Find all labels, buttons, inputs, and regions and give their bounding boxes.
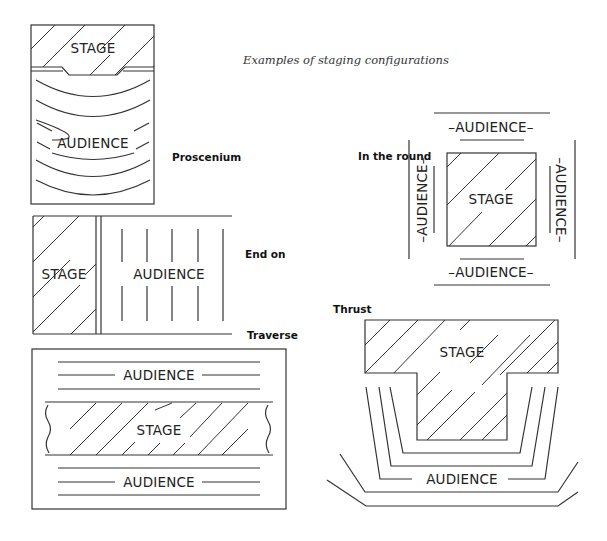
proscenium-stage-label: STAGE [71, 40, 116, 56]
traverse-audience-bottom-label: AUDIENCE [123, 474, 195, 490]
in-the-round-diagram: In the round –AUDIENCE– STAGE –AUDIENCE–… [358, 113, 575, 285]
diagram-title: Examples of staging configurations [242, 53, 449, 67]
end-on-caption: End on [245, 248, 286, 260]
end-on-stage-label: STAGE [42, 266, 87, 282]
thrust-audience-label: AUDIENCE [426, 471, 498, 487]
thrust-stage-label: STAGE [440, 344, 485, 360]
end-on-diagram: STAGE AUDIENCE End on [20, 195, 286, 345]
in-the-round-audience-top-label: –AUDIENCE– [448, 119, 534, 135]
in-the-round-audience-bottom-label: –AUDIENCE– [448, 264, 534, 280]
thrust-diagram: Thrust STAGE AUDIENCE [327, 303, 578, 506]
traverse-audience-top-label: AUDIENCE [123, 367, 195, 383]
staging-diagram: Examples of staging configurations STAGE… [0, 0, 607, 541]
proscenium-caption: Proscenium [172, 151, 241, 163]
proscenium-diagram: STAGE AUDIENCE Proscenium [20, 20, 241, 204]
in-the-round-audience-right-label: –AUDIENCE– [553, 157, 569, 243]
traverse-stage-label: STAGE [137, 422, 182, 438]
end-on-audience-label: AUDIENCE [133, 266, 205, 282]
traverse-diagram: Traverse AUDIENCE STAGE AUDIENCE [32, 329, 298, 509]
in-the-round-stage-label: STAGE [469, 191, 514, 207]
thrust-caption: Thrust [333, 303, 372, 315]
in-the-round-audience-left-label: –AUDIENCE– [414, 157, 430, 243]
traverse-caption: Traverse [247, 329, 298, 341]
proscenium-audience-label: AUDIENCE [57, 135, 129, 151]
